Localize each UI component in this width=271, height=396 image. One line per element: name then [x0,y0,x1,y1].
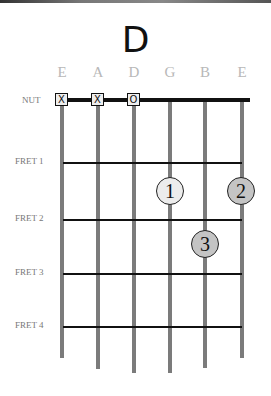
chord-title: D [0,20,271,60]
fret-line-3 [63,273,242,275]
top-border [0,0,271,3]
string-name-1: A [88,64,108,81]
string-name-5: E [232,64,252,81]
guitar-string-0 [60,100,64,358]
nut-line [55,98,250,102]
fret-label-3: FRET 3 [15,267,44,277]
guitar-string-1 [96,100,100,369]
nut-label: NUT [22,95,41,105]
fret-line-4 [63,326,242,328]
guitar-string-2 [132,100,136,373]
finger-position-3: 3 [191,230,219,258]
fret-label-2: FRET 2 [15,213,44,223]
fret-line-1 [63,162,242,164]
finger-position-1: 1 [156,177,184,205]
muted-string-icon: X [91,93,104,106]
string-name-3: G [160,64,180,81]
fret-line-2 [63,219,242,221]
open-string-icon: O [127,93,140,106]
finger-position-2: 2 [227,177,255,205]
guitar-string-3 [168,100,172,373]
fret-label-1: FRET 1 [15,156,44,166]
muted-string-icon: X [55,93,68,106]
fret-label-4: FRET 4 [15,320,44,330]
guitar-string-5 [240,100,244,358]
string-name-0: E [52,64,72,81]
string-name-2: D [124,64,144,81]
string-name-4: B [195,64,215,81]
